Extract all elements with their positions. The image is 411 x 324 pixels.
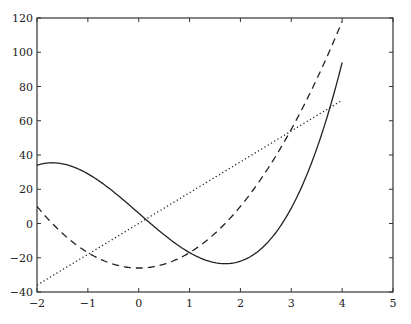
- x-tick-label: −1: [80, 297, 96, 310]
- y-axis-tick-labels: −40−20020406080100120: [10, 12, 33, 299]
- y-tick-label: −20: [10, 252, 33, 265]
- x-tick-label: 4: [339, 297, 346, 310]
- data-series: [37, 21, 342, 285]
- y-tick-label: 0: [26, 218, 33, 231]
- y-tick-label: 60: [19, 115, 33, 128]
- axes-frame: [37, 18, 393, 292]
- x-tick-label: 1: [186, 297, 193, 310]
- y-tick-label: 20: [19, 183, 33, 196]
- x-tick-label: 0: [135, 297, 142, 310]
- y-tick-label: 80: [19, 81, 33, 94]
- solid-curve-cubic: [37, 63, 342, 264]
- axis-ticks: [37, 18, 393, 292]
- y-tick-label: 100: [12, 46, 33, 59]
- x-tick-label: 2: [237, 297, 244, 310]
- plot-area: −2−1012345 −40−20020406080100120: [10, 12, 397, 310]
- y-tick-label: 40: [19, 149, 33, 162]
- dashed-curve-quadratic: [37, 21, 342, 268]
- dotted-line-linear: [37, 100, 342, 285]
- y-tick-label: −40: [10, 286, 33, 299]
- x-tick-label: 5: [390, 297, 397, 310]
- x-axis-tick-labels: −2−1012345: [29, 297, 397, 310]
- x-tick-label: 3: [288, 297, 295, 310]
- line-chart: −2−1012345 −40−20020406080100120: [0, 0, 411, 324]
- y-tick-label: 120: [12, 12, 33, 25]
